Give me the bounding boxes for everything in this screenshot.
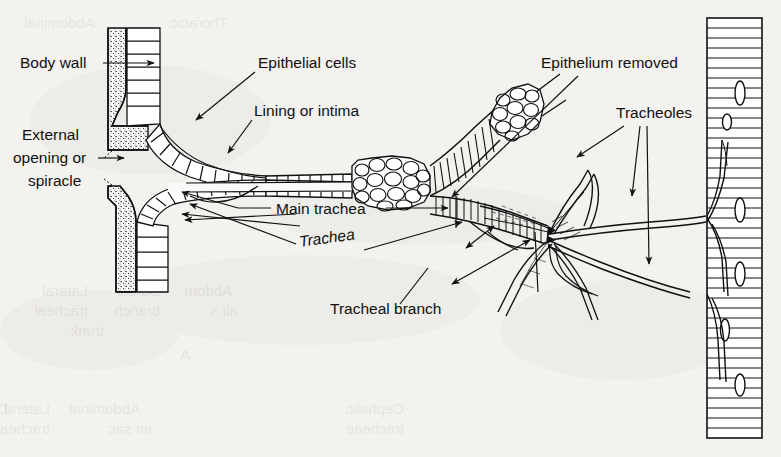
label-external-opening-2: opening or bbox=[13, 149, 86, 166]
label-external-opening-1: External bbox=[22, 126, 79, 143]
label-main-trachea: Main trachea bbox=[276, 200, 366, 217]
label-body-wall: Body wall bbox=[20, 54, 86, 71]
showthrough-text: Thoracic bbox=[170, 14, 228, 31]
showthrough-text: air sac bbox=[107, 420, 152, 437]
label-external-opening-3: spiracle bbox=[28, 172, 81, 189]
showthrough-text: A bbox=[180, 346, 190, 363]
label-epithelial-cells: Epithelial cells bbox=[258, 54, 356, 71]
label-epithelium-removed: Epithelium removed bbox=[541, 54, 678, 71]
showthrough-text: tracheae bbox=[346, 420, 404, 437]
epithelium-upper-vertical bbox=[127, 28, 160, 126]
label-tracheoles: Tracheoles bbox=[616, 104, 692, 121]
showthrough-text: tracheal bbox=[0, 420, 50, 437]
trachea-lumen bbox=[168, 182, 352, 192]
tracheal-system-figure: AbdominalThoracicLateraltrachealtrunkDor… bbox=[0, 0, 781, 457]
showthrough-text: Cephalic bbox=[345, 400, 404, 417]
label-tracheal-branch: Tracheal branch bbox=[330, 300, 441, 317]
striated-muscle-block bbox=[707, 18, 762, 438]
showthrough-text: De bbox=[0, 400, 8, 417]
label-lining-or-intima: Lining or intima bbox=[254, 102, 359, 119]
showthrough-text: Lateral bbox=[4, 400, 50, 417]
epithelium-lower-vertical bbox=[137, 222, 168, 292]
showthrough-text: Abdominal bbox=[24, 14, 95, 31]
showthrough-text: Abdominal bbox=[69, 400, 140, 417]
